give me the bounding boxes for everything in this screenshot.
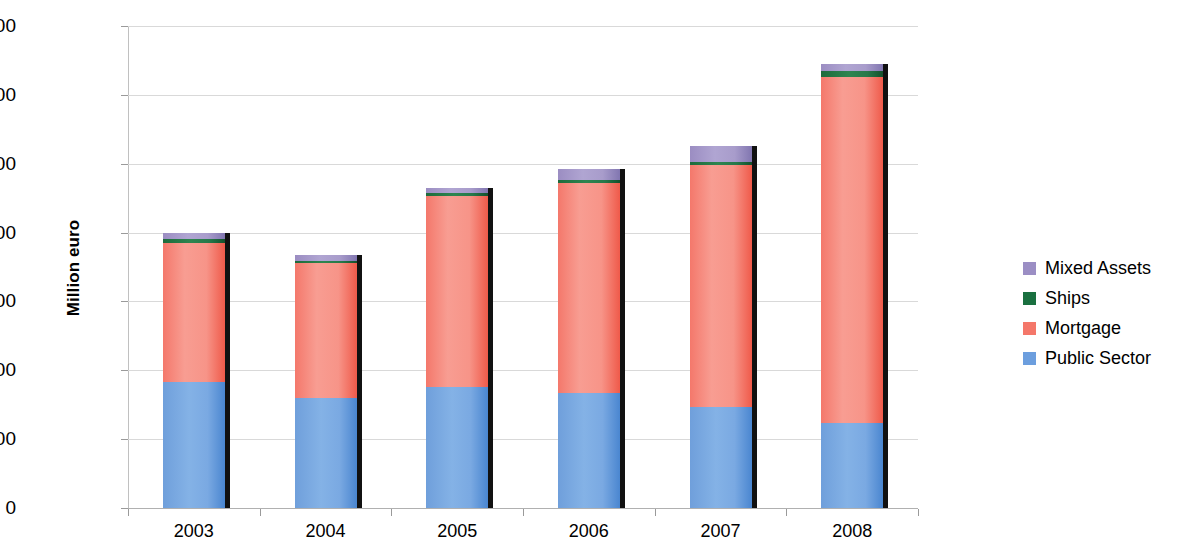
x-tick-mark (918, 509, 919, 516)
bar-segment-public-sector (821, 423, 883, 508)
y-tick-label: 500000 (0, 154, 16, 173)
stacked-bar-chart: Million euro 010000020000030000040000050… (0, 0, 1190, 560)
bar-segment-ships (690, 162, 752, 165)
legend-item-public-sector[interactable]: Public Sector (1023, 343, 1151, 373)
y-tick-label: 0 (0, 498, 16, 517)
plot-area (128, 26, 918, 508)
bar-segment-ships (426, 193, 488, 196)
y-tick-mark (121, 164, 128, 165)
legend-swatch-icon (1023, 292, 1036, 305)
chart-legend: Mixed AssetsShipsMortgagePublic Sector (1023, 253, 1151, 373)
bar-segment-ships (821, 71, 883, 77)
y-tick-mark (121, 301, 128, 302)
y-tick-label: 300000 (0, 291, 16, 310)
bar-segment-mixed-assets (821, 64, 883, 72)
bar-shadow (883, 64, 888, 508)
bar-segment-mixed-assets (690, 146, 752, 163)
bar-stack (690, 26, 752, 508)
bar-group-2005 (426, 26, 488, 508)
bar-segment-public-sector (295, 398, 357, 508)
bar-group-2007 (690, 26, 752, 508)
bar-segment-mortgage (426, 196, 488, 387)
legend-label: Public Sector (1045, 348, 1151, 368)
x-tick-label: 2006 (529, 521, 649, 541)
bar-segment-public-sector (558, 393, 620, 508)
bar-segment-mixed-assets (163, 233, 225, 239)
y-tick-mark (121, 439, 128, 440)
x-tick-label: 2008 (792, 521, 912, 541)
legend-item-mixed-assets[interactable]: Mixed Assets (1023, 253, 1151, 283)
x-tick-label: 2004 (266, 521, 386, 541)
bar-shadow (357, 255, 362, 508)
bar-segment-mortgage (163, 243, 225, 382)
y-tick-label: 600000 (0, 85, 16, 104)
bar-group-2008 (821, 26, 883, 508)
bar-shadow (752, 146, 757, 508)
bar-shadow (620, 169, 625, 508)
bar-segment-mixed-assets (558, 169, 620, 180)
bar-stack (295, 26, 357, 508)
bar-segment-mortgage (821, 77, 883, 423)
bar-shadow (225, 233, 230, 508)
bar-shadow (488, 188, 493, 508)
legend-item-ships[interactable]: Ships (1023, 283, 1151, 313)
x-tick-mark (128, 509, 129, 516)
legend-swatch-icon (1023, 262, 1036, 275)
bar-segment-public-sector (690, 407, 752, 508)
x-tick-mark (523, 509, 524, 516)
legend-label: Mortgage (1045, 318, 1121, 338)
legend-swatch-icon (1023, 322, 1036, 335)
bar-group-2003 (163, 26, 225, 508)
bar-segment-mortgage (690, 165, 752, 407)
y-tick-mark (121, 370, 128, 371)
bar-segment-ships (163, 239, 225, 242)
y-tick-label: 100000 (0, 429, 16, 448)
x-tick-mark (260, 509, 261, 516)
legend-label: Ships (1045, 288, 1090, 308)
x-tick-mark (786, 509, 787, 516)
bar-stack (426, 26, 488, 508)
x-tick-mark (391, 509, 392, 516)
x-tick-label: 2005 (397, 521, 517, 541)
y-tick-label: 400000 (0, 223, 16, 242)
bar-segment-mixed-assets (426, 188, 488, 194)
legend-swatch-icon (1023, 352, 1036, 365)
y-axis-title: Million euro (64, 168, 84, 368)
legend-label: Mixed Assets (1045, 258, 1151, 278)
bar-stack (558, 26, 620, 508)
bar-stack (163, 26, 225, 508)
y-tick-mark (121, 26, 128, 27)
bar-segment-public-sector (163, 382, 225, 508)
x-tick-label: 2003 (134, 521, 254, 541)
bar-group-2006 (558, 26, 620, 508)
x-tick-label: 2007 (661, 521, 781, 541)
bar-segment-mixed-assets (295, 255, 357, 261)
bar-stack (821, 26, 883, 508)
legend-item-mortgage[interactable]: Mortgage (1023, 313, 1151, 343)
bar-segment-public-sector (426, 387, 488, 508)
y-tick-label: 700000 (0, 16, 16, 35)
y-tick-label: 200000 (0, 360, 16, 379)
bar-segment-mortgage (558, 183, 620, 393)
bar-segment-ships (295, 261, 357, 263)
y-tick-mark (121, 508, 128, 509)
y-tick-mark (121, 95, 128, 96)
bar-segment-mortgage (295, 263, 357, 398)
y-tick-mark (121, 233, 128, 234)
bar-segment-ships (558, 180, 620, 183)
bar-group-2004 (295, 26, 357, 508)
x-tick-mark (655, 509, 656, 516)
